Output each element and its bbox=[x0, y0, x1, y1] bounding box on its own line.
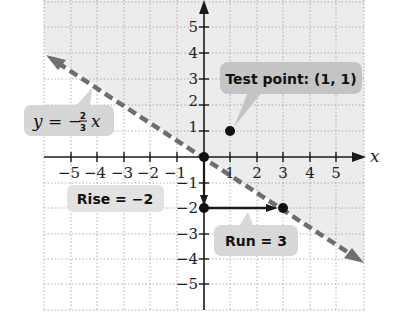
x-tick-label: −5 bbox=[58, 164, 80, 182]
run-arrow bbox=[204, 204, 278, 212]
y-tick-label: 3 bbox=[188, 70, 198, 88]
rise-label: Rise = −2 bbox=[77, 191, 153, 207]
rise-end-point bbox=[199, 203, 209, 213]
rise-callout: Rise = −2 bbox=[67, 185, 164, 212]
y-tick-label: 4 bbox=[188, 44, 198, 62]
equation-frac-den: 3 bbox=[80, 123, 86, 133]
x-tick-label: −3 bbox=[111, 164, 133, 182]
run-callout: Run = 3 bbox=[214, 212, 298, 256]
y-tick-label: 1 bbox=[188, 118, 198, 136]
x-tick-label: 1 bbox=[225, 164, 235, 182]
x-tick-label: −2 bbox=[137, 164, 159, 182]
y-tick-label: −3 bbox=[176, 225, 198, 243]
rise-arrow bbox=[200, 157, 208, 206]
coordinate-graph: −5 −4 −3 −2 −1 1 2 3 4 5 x 1 2 3 4 5 −1 … bbox=[0, 0, 407, 325]
y-tick-label: −1 bbox=[176, 174, 198, 192]
x-tick-label: −4 bbox=[84, 164, 106, 182]
run-label: Run = 3 bbox=[225, 233, 287, 249]
x-tick-label: 2 bbox=[252, 164, 262, 182]
equation-callout: y = − 2 3 x bbox=[24, 88, 114, 136]
test-point bbox=[225, 126, 235, 136]
y-tick-label: 5 bbox=[188, 18, 198, 36]
test-point-label: Test point: (1, 1) bbox=[225, 71, 356, 87]
equation-suffix: x bbox=[91, 111, 101, 131]
y-tick-label: −2 bbox=[176, 199, 198, 217]
y-tick-label: −5 bbox=[176, 275, 198, 293]
x-axis-label: x bbox=[370, 146, 380, 166]
equation-frac-num: 2 bbox=[80, 111, 86, 121]
y-tick-label: 2 bbox=[188, 92, 198, 110]
origin-point bbox=[199, 152, 209, 162]
equation-prefix: y = − bbox=[32, 111, 82, 131]
x-tick-label: 4 bbox=[305, 164, 315, 182]
run-end-point bbox=[278, 203, 288, 213]
x-tick-label: 5 bbox=[331, 164, 341, 182]
y-tick-label: −4 bbox=[176, 250, 198, 268]
x-tick-label: 3 bbox=[278, 164, 288, 182]
